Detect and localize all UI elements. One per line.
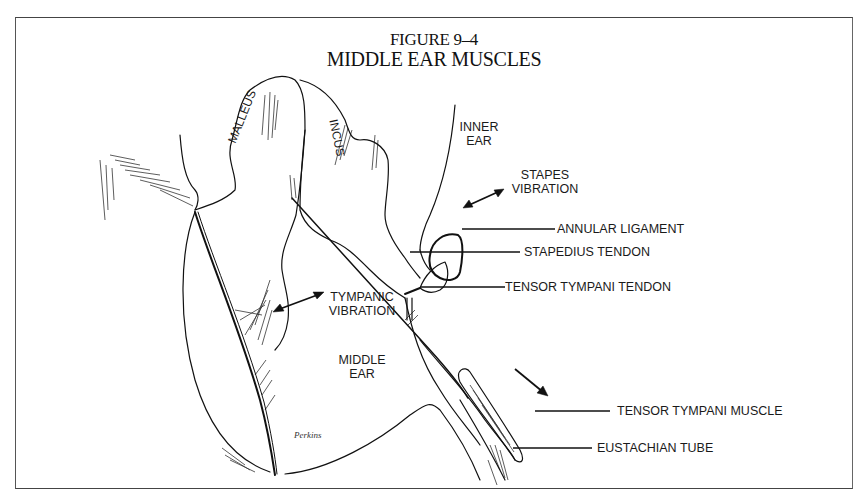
middle-ear-line1: MIDDLE [334, 353, 390, 367]
inner-ear-label: INNER EAR [457, 120, 501, 148]
artist-signature: Perkins [294, 428, 322, 442]
callout-tensor-tympani-muscle: TENSOR TYMPANI MUSCLE [617, 404, 783, 418]
stapes-vibration-line1: STAPES [510, 168, 580, 182]
middle-ear-floor [285, 405, 480, 480]
inner-ear-line1: INNER [457, 120, 501, 134]
tympanic-vibration-line2: VIBRATION [324, 304, 400, 318]
stapes-footplate [429, 234, 462, 280]
stapes-vibration-label: STAPES VIBRATION [510, 168, 580, 196]
incus-outline-outer [300, 80, 420, 278]
stapes-vibration-arrow [467, 191, 500, 206]
tympanic-vibration-label: TYMPANIC VIBRATION [324, 290, 400, 318]
tympanic-vibration-line1: TYMPANIC [324, 290, 400, 304]
stapes-arch [420, 262, 448, 292]
incus-outline-inner [300, 130, 405, 298]
callout-tensor-tympani-tendon: TENSOR TYMPANI TENDON [505, 280, 671, 294]
malleus-outline [195, 77, 305, 350]
middle-ear-line2: EAR [334, 367, 390, 381]
middle-ear-label: MIDDLE EAR [334, 353, 390, 381]
figure-title: MIDDLE EAR MUSCLES [0, 48, 868, 71]
callout-annular-ligament: ANNULAR LIGAMENT [557, 222, 684, 236]
tympanic-vibration-arrow [277, 294, 320, 310]
outer-bone-outline [180, 135, 198, 210]
callout-eustachian-tube: EUSTACHIAN TUBE [597, 441, 713, 455]
tympanic-membrane [195, 212, 275, 475]
tensor-pull-arrow [515, 369, 543, 392]
middle-ear-illustration [0, 0, 868, 502]
callout-stapedius-tendon: STAPEDIUS TENDON [524, 245, 650, 259]
figure-number: FIGURE 9–4 [0, 30, 868, 50]
inner-ear-wall [420, 105, 455, 250]
ear-canal-wall [183, 212, 270, 472]
inner-ear-line2: EAR [457, 134, 501, 148]
middle-ear-wall [405, 298, 480, 445]
stapes-vibration-line2: VIBRATION [510, 182, 580, 196]
